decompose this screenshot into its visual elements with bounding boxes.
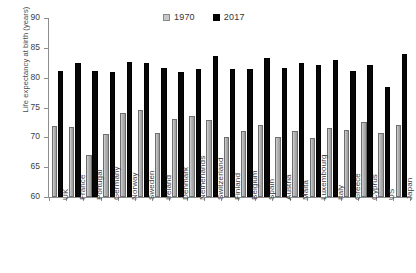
bar-group-greece [341,18,358,197]
x-axis-label-uk: UK [61,189,70,200]
bar-2017-spain [264,58,269,197]
x-axis-label-germany: Germany [112,166,121,200]
x-axis-label-greece: Greece [353,173,362,200]
x-axis-label-luxembourg: Luxembourg [319,155,328,200]
bar-group-malta [290,18,307,197]
y-tick-label-85: 85 [31,42,40,52]
x-axis-label-norway: Norway [130,172,139,200]
bar-group-japan [393,18,410,197]
bar-2017-japan [402,54,407,197]
bar-1970-france [69,127,74,197]
bar-1970-germany [103,134,108,197]
x-axis-label-us: US [387,189,396,200]
bar-1970-uk [52,126,57,197]
x-axis-labels: UKFrancePortugalGermanyNorwaySwedenIrela… [49,200,410,270]
y-tick-label-60: 60 [31,191,40,201]
x-axis-label-austria: Austria [284,174,293,200]
x-axis-label-japan: Japan [405,178,414,200]
bar-1970-japan [396,125,401,197]
y-tick-label-70: 70 [31,131,40,141]
bar-group-austria [272,18,289,197]
bar-1970-switzerland [206,120,211,197]
x-axis-label-denmark: Denmark [181,167,190,200]
x-axis-label-france: France [78,175,87,201]
y-tick-label-90: 90 [31,12,40,22]
bar-1970-austria [275,137,280,197]
bar-1970-malta [292,131,297,197]
bar-2017-us [385,87,390,197]
bar-1970-us [378,133,383,197]
bar-1970-luxembourg [310,138,315,197]
y-tick-label-65: 65 [31,161,40,171]
x-axis-label-sweden: Sweden [147,170,156,200]
bar-group-uk [49,18,66,197]
x-axis-label-netherlands: Netherlands [198,156,207,200]
x-axis-label-finland: Finland [233,173,242,200]
bar-group-france [66,18,83,197]
x-axis-label-malta: Malta [301,180,310,200]
bar-2017-uk [58,71,63,197]
x-axis-label-belgium: Belgium [250,170,259,200]
x-axis-label-spain: Spain [267,179,276,200]
x-axis-label-ireland: Ireland [164,175,173,200]
y-axis-title: Life expectancy at birth (years) [21,0,30,135]
bar-group-us [376,18,393,197]
x-axis-label-portugal: Portugal [95,169,104,200]
bar-1970-netherlands [189,116,194,197]
bar-2017-malta [299,63,304,197]
bar-1970-norway [120,113,125,197]
bar-group-cyprus [358,18,375,197]
y-tick-label-75: 75 [31,102,40,112]
bar-2017-italy [333,60,338,197]
x-axis-label-italy: Italy [336,185,345,200]
x-axis-label-switzerland: Switzerland [216,158,225,200]
y-tick-label-80: 80 [31,72,40,82]
x-axis-label-cyprus: Cyprus [370,174,379,200]
life-expectancy-bar-chart: 1970 2017 Life expectancy at birth (year… [0,0,416,273]
